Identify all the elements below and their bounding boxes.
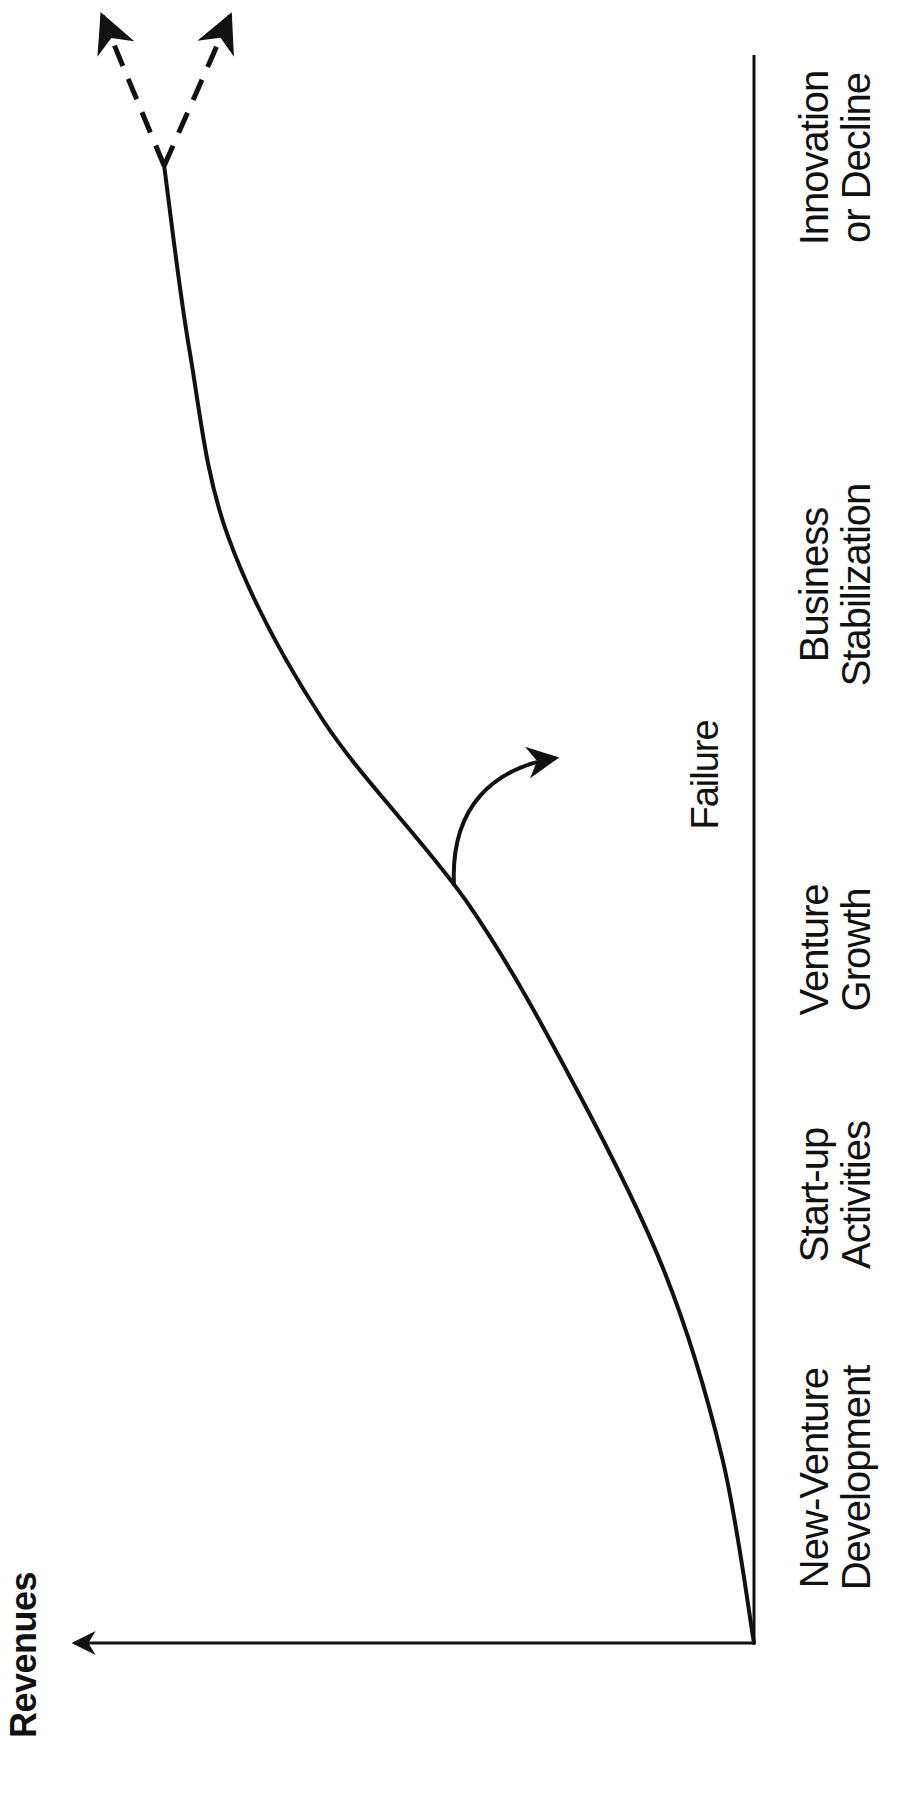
revenue-curve <box>164 166 754 1643</box>
stage-label-line2: Growth <box>835 885 877 1016</box>
decline-dashed-arrow <box>164 16 230 166</box>
stage-label-line2: Activities <box>835 1121 877 1269</box>
chart-canvas <box>0 0 924 1804</box>
stage-label-line1: Innovation <box>793 71 835 246</box>
stage-label-start-up-activities: Start-up Activities <box>793 1121 877 1269</box>
stage-label-line1: Venture <box>793 885 835 1016</box>
stage-label-line2: or Decline <box>835 71 877 246</box>
stage-label-line1: Business <box>793 484 835 687</box>
stage-label-business-stabilization: Business Stabilization <box>793 484 877 687</box>
stage-label-innovation-or-decline: Innovation or Decline <box>793 71 877 246</box>
stage-label-line2: Development <box>835 1366 877 1591</box>
stage-label-venture-growth: Venture Growth <box>793 885 877 1016</box>
stage-label-line1: New-Venture <box>793 1366 835 1591</box>
stage-label-new-venture-development: New-Venture Development <box>793 1366 877 1591</box>
venture-life-cycle-diagram: Revenues New-Venture Development Start-u… <box>0 0 924 1804</box>
failure-arrow <box>454 758 556 886</box>
stage-label-line2: Stabilization <box>835 484 877 687</box>
stage-label-line1: Start-up <box>793 1121 835 1269</box>
failure-annotation-label: Failure <box>686 720 726 829</box>
y-axis-label: Revenues <box>5 1572 43 1738</box>
innovation-dashed-arrow <box>102 16 164 166</box>
